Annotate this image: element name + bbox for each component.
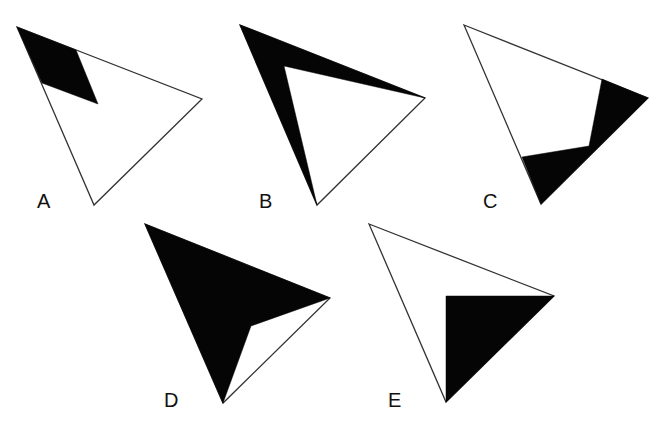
option-a: A: [17, 27, 202, 212]
triangle-e-shaded-region: [446, 296, 554, 402]
option-label-e: E: [388, 389, 401, 411]
option-e: E: [369, 224, 554, 411]
option-label-b: B: [259, 190, 272, 212]
option-label-c: C: [483, 190, 497, 212]
option-label-a: A: [37, 190, 51, 212]
option-b: B: [240, 25, 425, 212]
option-c: C: [464, 25, 648, 212]
option-d: D: [145, 224, 330, 411]
triangle-figure: A B C D E: [0, 0, 666, 430]
option-label-d: D: [164, 389, 178, 411]
